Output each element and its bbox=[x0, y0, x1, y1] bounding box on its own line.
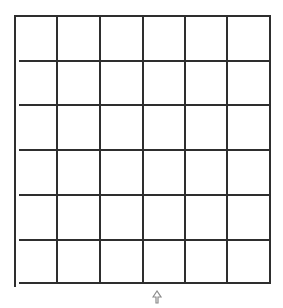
arrow-pointer-icon bbox=[152, 289, 166, 303]
